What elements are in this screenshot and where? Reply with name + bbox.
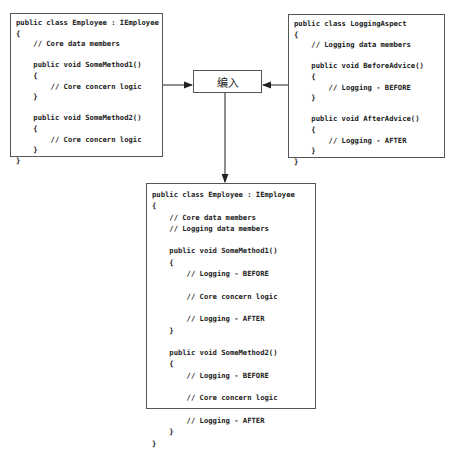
code-line: public class Employee : IEmployee	[152, 189, 310, 200]
code-line: // Core concern logic	[152, 291, 310, 302]
code-line: {	[152, 200, 310, 211]
code-line: // Core concern logic	[152, 392, 310, 403]
code-line: // Logging - BEFORE	[152, 370, 310, 381]
code-line: // Logging - AFTER	[152, 415, 310, 426]
code-line: // Logging - BEFORE	[152, 268, 310, 279]
code-line: }	[294, 93, 439, 104]
code-line: // Core data members	[16, 39, 157, 50]
woven-employee-code-box: public class Employee : IEmployee { // C…	[146, 183, 316, 409]
code-line: // Logging data members	[294, 40, 439, 51]
code-line: }	[16, 156, 157, 167]
code-line: // Logging - BEFORE	[294, 83, 439, 94]
code-line: public void BeforeAdvice()	[294, 61, 439, 72]
code-line	[16, 103, 157, 114]
code-line: }	[16, 145, 157, 156]
code-line: {	[294, 72, 439, 83]
code-line: public void SomeMethod1()	[152, 245, 310, 256]
code-line	[294, 51, 439, 62]
code-line: }	[152, 426, 310, 437]
code-line: {	[16, 29, 157, 40]
code-line: // Logging - AFTER	[294, 136, 439, 147]
code-line: // Core data members	[152, 212, 310, 223]
code-line: {	[16, 71, 157, 82]
code-line: // Core concern logic	[16, 82, 157, 93]
weave-label: 编入	[217, 74, 239, 90]
code-line: {	[294, 125, 439, 136]
code-line	[16, 50, 157, 61]
employee-core-code-box: public class Employee : IEmployee { // C…	[10, 13, 163, 157]
code-line: }	[294, 157, 439, 168]
code-line: }	[152, 325, 310, 336]
code-line	[152, 302, 310, 313]
logging-aspect-code-box: public class LoggingAspect { // Logging …	[288, 14, 445, 158]
code-line: public void SomeMethod2()	[152, 347, 310, 358]
code-line	[152, 234, 310, 245]
code-line: {	[152, 257, 310, 268]
code-line: }	[152, 438, 310, 449]
code-line: }	[294, 146, 439, 157]
code-line: // Core concern logic	[16, 135, 157, 146]
code-line	[294, 104, 439, 115]
code-line: // Logging - AFTER	[152, 313, 310, 324]
code-line: public class LoggingAspect	[294, 19, 439, 30]
code-line: public void SomeMethod2()	[16, 113, 157, 124]
code-line: public void AfterAdvice()	[294, 114, 439, 125]
code-line: public class Employee : IEmployee	[16, 18, 157, 29]
code-line: {	[294, 30, 439, 41]
code-line: // Logging data members	[152, 223, 310, 234]
code-line	[152, 279, 310, 290]
code-line	[152, 336, 310, 347]
code-line: {	[152, 358, 310, 369]
code-line: {	[16, 124, 157, 135]
code-line: }	[16, 92, 157, 103]
code-line: public void SomeMethod1()	[16, 60, 157, 71]
code-line	[152, 381, 310, 392]
code-line	[152, 404, 310, 415]
weave-node: 编入	[193, 70, 262, 93]
